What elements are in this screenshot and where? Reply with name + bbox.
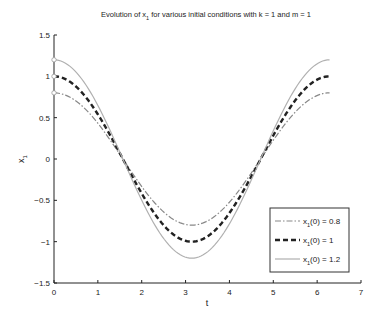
svg-text:x1: x1 — [16, 154, 28, 163]
y-tick-label: 1 — [46, 72, 51, 81]
initial-point-marker — [52, 91, 56, 95]
x-tick-label: 2 — [139, 288, 144, 297]
y-tick-label: 0 — [46, 155, 51, 164]
x-tick-label: 4 — [227, 288, 232, 297]
y-tick-label: −1.5 — [34, 279, 50, 288]
x-tick-label: 3 — [183, 288, 188, 297]
x-tick-label: 5 — [271, 288, 276, 297]
legend: x1(0) = 0.8x1(0) = 1x1(0) = 1.2 — [270, 208, 349, 272]
initial-point-marker — [52, 74, 56, 78]
series-line — [54, 93, 330, 225]
y-tick-label: 1.5 — [39, 31, 51, 40]
initial-point-marker — [52, 58, 56, 62]
x-axis-label: t — [206, 298, 209, 308]
line-chart: Evolution of x1 for various initial cond… — [0, 0, 382, 321]
chart-title: Evolution of x1 for various initial cond… — [101, 10, 311, 21]
x-tick-label: 1 — [96, 288, 101, 297]
x-tick-label: 6 — [315, 288, 320, 297]
x-tick-label: 7 — [359, 288, 364, 297]
y-axis-label: x1 — [16, 154, 28, 163]
y-tick-label: −0.5 — [34, 196, 50, 205]
y-tick-label: −1 — [41, 238, 51, 247]
x-tick-label: 0 — [52, 288, 57, 297]
y-tick-label: 0.5 — [39, 114, 51, 123]
